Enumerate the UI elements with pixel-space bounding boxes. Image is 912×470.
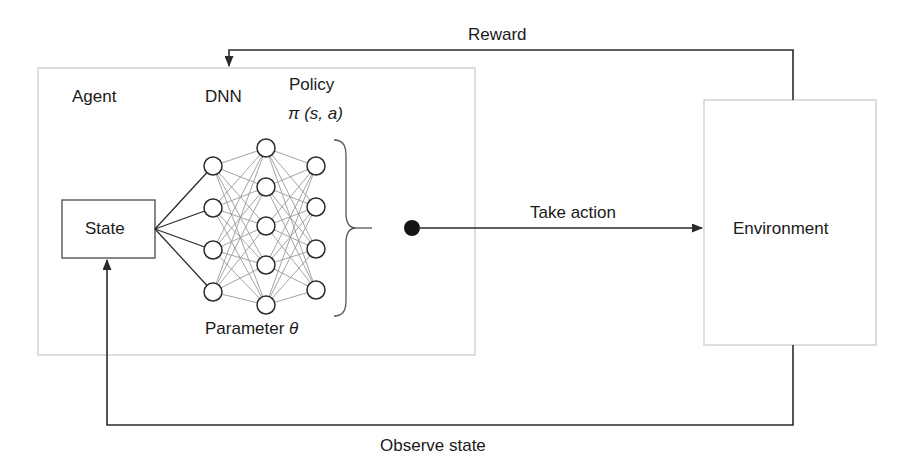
dnn-node bbox=[257, 139, 275, 157]
policy-function-args: (s, a) bbox=[304, 104, 343, 123]
dnn-node bbox=[204, 283, 222, 301]
take-action-edge-label: Take action bbox=[530, 204, 616, 221]
rl-loop-diagram: Agent DNN Policy π (s, a) Parameter θ St… bbox=[0, 0, 912, 470]
agent-label: Agent bbox=[72, 88, 116, 105]
action-node-dot bbox=[404, 220, 420, 236]
pi-symbol: π bbox=[288, 104, 299, 123]
state-box-label: State bbox=[85, 220, 125, 237]
dnn-node bbox=[257, 296, 275, 314]
dnn-node bbox=[307, 198, 325, 216]
dnn-node bbox=[204, 241, 222, 259]
dnn-node bbox=[307, 157, 325, 175]
dnn-node bbox=[204, 199, 222, 217]
dnn-node bbox=[204, 157, 222, 175]
state-to-dnn-links bbox=[155, 166, 213, 292]
reward-edge-label: Reward bbox=[468, 26, 527, 43]
policy-label: Policy bbox=[289, 76, 334, 93]
dnn-node bbox=[307, 281, 325, 299]
environment-label: Environment bbox=[733, 220, 828, 237]
policy-brace bbox=[334, 140, 356, 316]
parameter-label: Parameter θ bbox=[205, 320, 298, 337]
dnn-node bbox=[257, 217, 275, 235]
dnn-label: DNN bbox=[205, 88, 242, 105]
dnn-network bbox=[155, 139, 325, 314]
parameter-text: Parameter bbox=[205, 319, 284, 338]
theta-symbol: θ bbox=[289, 319, 298, 338]
observe-state-edge-label: Observe state bbox=[380, 437, 486, 454]
dnn-node bbox=[257, 256, 275, 274]
dnn-node bbox=[307, 240, 325, 258]
dnn-node bbox=[257, 178, 275, 196]
policy-function-label: π (s, a) bbox=[288, 105, 343, 122]
